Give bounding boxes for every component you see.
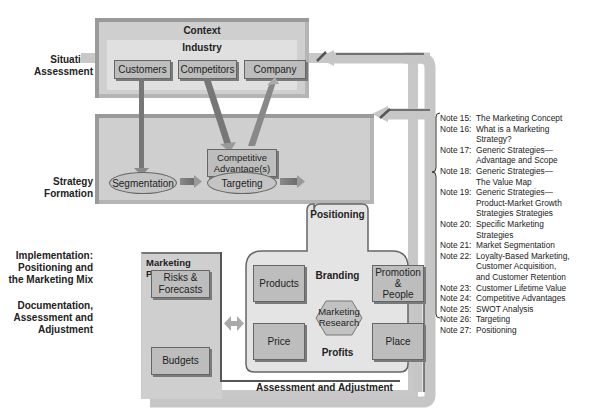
note-item: Note 15:The Marketing Concept — [440, 113, 570, 124]
note-item: Note 22:Loyalty-Based Marketing, Custome… — [440, 251, 570, 283]
note-item: Note 26:Targeting — [440, 314, 570, 325]
note-item: Note 23:Customer Lifetime Value — [440, 283, 570, 294]
note-item: Note 27:Positioning — [440, 325, 570, 336]
note-item: Note 19:Generic Strategies— Product-Mark… — [440, 187, 570, 219]
note-item: Note 24:Competitive Advantages — [440, 293, 570, 304]
note-item: Note 18:Generic Strategies— The Value Ma… — [440, 166, 570, 187]
note-item: Note 25:SWOT Analysis — [440, 304, 570, 315]
note-item: Note 17:Generic Strategies— Advantage an… — [440, 145, 570, 166]
note-item: Note 21:Market Segmentation — [440, 240, 570, 251]
notes-list: Note 15:The Marketing Concept Note 16:Wh… — [440, 113, 570, 335]
note-item: Note 20:Specific Marketing Strategies — [440, 219, 570, 240]
note-item: Note 16:What is a Marketing Strategy? — [440, 124, 570, 145]
